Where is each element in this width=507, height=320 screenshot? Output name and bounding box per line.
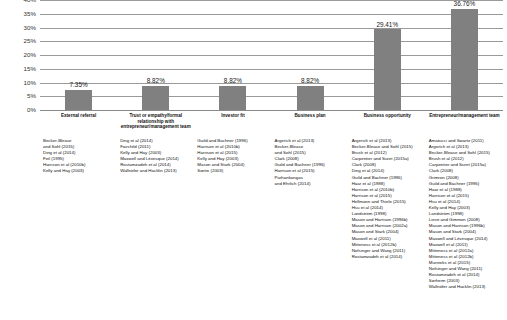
bar-group: 8.82% xyxy=(117,0,194,110)
category-label: Entrepreneur/management team xyxy=(426,113,503,130)
bar-value-label: 7.35% xyxy=(40,81,117,88)
bar-value-label: 8.82% xyxy=(194,77,271,84)
bar-series: 7.35%8.82%8.82%8.82%29.41%36.76% xyxy=(40,0,503,110)
bar[interactable] xyxy=(374,29,401,110)
bar[interactable] xyxy=(297,86,324,110)
reference-item: and Ehrlich (2014) xyxy=(275,181,346,187)
reference-item: Sætre (2003) xyxy=(197,168,268,174)
category-label: Investor fit xyxy=(194,113,271,130)
category-label: Trust or empathy/formal relationship wit… xyxy=(117,113,194,130)
category-label: External referral xyxy=(40,113,117,130)
category-axis-labels: External referralTrust or empathy/formal… xyxy=(40,113,503,130)
reference-column: Becker-Bleaseand Sohl (2015)Ding et al (… xyxy=(40,138,117,175)
reference-columns: Becker-Bleaseand Sohl (2015)Ding et al (… xyxy=(40,138,503,290)
bar-value-label: 29.41% xyxy=(349,21,426,28)
y-axis-tick-label: 5% xyxy=(27,93,36,99)
reference-item: Rostamzadeh et al (2014) xyxy=(352,254,423,260)
bar-group: 29.41% xyxy=(349,0,426,110)
bar-value-label: 8.82% xyxy=(117,77,194,84)
y-axis-tick-label: 20% xyxy=(24,52,36,58)
bar-group: 8.82% xyxy=(194,0,271,110)
bar[interactable] xyxy=(219,86,246,110)
bar-value-label: 8.82% xyxy=(272,77,349,84)
reference-column: Amatucci and Swartz (2011)Argerich et al… xyxy=(426,138,503,290)
y-axis-tick-label: 40% xyxy=(24,0,36,3)
bar-chart-figure: 40%35%30%25%20%15%10%5%0% 7.35%8.82%8.82… xyxy=(0,0,507,320)
reference-column: Argerich et al (2013)Becker-Bleaseand So… xyxy=(272,138,349,187)
bar-group: 8.82% xyxy=(272,0,349,110)
bar-group: 36.76% xyxy=(426,0,503,110)
plot-area: 40%35%30%25%20%15%10%5%0% 7.35%8.82%8.82… xyxy=(0,0,507,131)
bar-group: 7.35% xyxy=(40,0,117,110)
y-axis: 40%35%30%25%20%15%10%5%0% xyxy=(0,0,40,115)
reference-item: Kelly and Hay (2003) xyxy=(43,168,114,174)
y-axis-tick-label: 15% xyxy=(24,66,36,72)
reference-column: Guild and Bachner (1996)Harrison et al (… xyxy=(194,138,271,175)
y-axis-tick-label: 25% xyxy=(24,38,36,44)
reference-item: Wallnöfer and Hacklin (2013) xyxy=(120,168,191,174)
y-axis-tick-label: 35% xyxy=(24,11,36,17)
bar[interactable] xyxy=(142,86,169,110)
bar[interactable] xyxy=(65,90,92,110)
category-label: Business opportunity xyxy=(349,113,426,130)
category-label: Business plan xyxy=(272,113,349,130)
reference-column: Ding et al (2014)Fairchild (2011)Kelly a… xyxy=(117,138,194,175)
y-axis-tick-label: 30% xyxy=(24,24,36,30)
bar[interactable] xyxy=(451,9,478,110)
bar-value-label: 36.76% xyxy=(426,0,503,7)
reference-item: Wallnöfer and Hacklin (2013) xyxy=(429,284,500,290)
y-axis-tick-label: 0% xyxy=(27,107,36,113)
y-axis-tick-label: 10% xyxy=(24,79,36,85)
axis-baseline xyxy=(40,110,503,111)
reference-column: Argerich et al (2013)Becker-Blease and S… xyxy=(349,138,426,260)
